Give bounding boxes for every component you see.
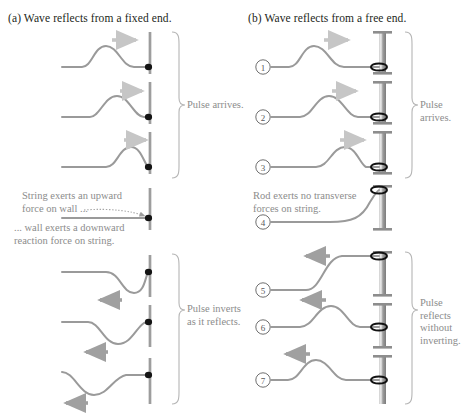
step-number-badge (256, 320, 270, 334)
panel-a-frame-7 (62, 372, 152, 403)
step-number-badge (256, 283, 270, 297)
panel-b-frame-2: 2 (256, 91, 387, 124)
ring-marker (371, 163, 387, 170)
string-pulse-inverted (62, 372, 148, 395)
panel-b-label: (b) (248, 12, 262, 24)
panel-b-frame-7: 7 (256, 354, 387, 387)
string-pulse-upright (271, 46, 379, 67)
panel-a-frame-1 (62, 40, 152, 70)
step-number-badge (256, 373, 270, 387)
ring-marker (371, 63, 387, 70)
panel-a-frame-2 (62, 91, 152, 120)
bracket-pulse-arrives (172, 32, 185, 178)
step-number-text: 3 (261, 163, 266, 173)
ring-marker (371, 186, 387, 193)
bracket-label-a-pulse-arrives: Pulse arrives. (187, 99, 244, 112)
step-number-badge (256, 60, 270, 74)
string-pulse-upright (271, 360, 379, 380)
panel-a-title-text: Wave reflects from a fixed end. (24, 12, 172, 24)
knot-marker (145, 164, 152, 170)
string-pulse-upright (271, 96, 379, 117)
panel-a-label: (a) (8, 12, 21, 24)
panel-b-frame-6: 6 (256, 300, 387, 334)
step-number-text: 7 (261, 376, 266, 386)
panel-a-title: (a) Wave reflects from a fixed end. (8, 12, 172, 24)
string-pulse-inverted (62, 322, 148, 344)
string-pulse-upright (62, 46, 148, 67)
panel-a-frame-3 (62, 140, 152, 170)
bracket-pulse-no-invert (405, 252, 418, 404)
string-pulse-upright (62, 96, 148, 117)
string-pulse-upright (271, 147, 379, 167)
ring-marker (371, 113, 387, 120)
caption-rod-no-transverse-force: Rod exerts no transverse forces on strin… (253, 190, 357, 215)
panel-b-title-text: Wave reflects from a free end. (265, 12, 407, 24)
panel-a-brackets (172, 32, 185, 404)
step-number-badge (256, 160, 270, 174)
knot-marker (145, 372, 152, 378)
ring-marker (371, 323, 387, 330)
ring-marker (371, 252, 387, 259)
bracket-label-b-pulse-no-invert: Pulse reflects without inverting. (420, 297, 474, 347)
step-number-text: 2 (261, 113, 266, 123)
knot-marker (145, 269, 152, 275)
step-number-badge (256, 215, 270, 229)
bracket-label-a-pulse-inverts: Pulse inverts as it reflects. (187, 303, 241, 328)
string-pulse-upright (62, 147, 148, 167)
bracket-pulse-inverts (172, 254, 185, 404)
ring-marker (371, 376, 387, 383)
knot-marker (145, 319, 152, 325)
caption-wall-reaction-force: ... wall exerts a downward reaction forc… (14, 222, 125, 247)
knot-marker (145, 114, 152, 120)
step-number-text: 6 (261, 323, 266, 333)
string-pulse-inverted (62, 272, 148, 293)
rod-segments-panel-b (373, 31, 392, 404)
knot-marker (145, 64, 152, 70)
knot-marker (145, 215, 152, 221)
step-number-text: 4 (261, 218, 266, 228)
string-pulse-upright (271, 306, 379, 327)
step-number-text: 1 (261, 63, 266, 73)
panel-a-frame-5 (62, 269, 152, 300)
step-number-badge (256, 110, 270, 124)
panel-a-frame-6 (62, 319, 152, 352)
step-number-text: 5 (261, 286, 266, 296)
wall-segments-panel-a (149, 32, 152, 404)
panel-b-frame-1: 1 (256, 40, 387, 74)
caption-string-exerts-force: String exerts an upward force on wall ..… (22, 190, 122, 215)
panel-b-frame-5: 5 (256, 252, 387, 297)
panel-b-frame-3: 3 (256, 140, 387, 174)
panel-b-brackets (405, 32, 418, 404)
bracket-label-b-pulse-arrives: Pulse arrives. (420, 99, 474, 124)
panel-b-title: (b) Wave reflects from a free end. (248, 12, 406, 24)
bracket-pulse-arrives (405, 32, 418, 178)
string-pulse-upright (271, 256, 379, 290)
wave-reflection-figure: (a) Wave reflects from a fixed end. (b) … (0, 0, 474, 418)
